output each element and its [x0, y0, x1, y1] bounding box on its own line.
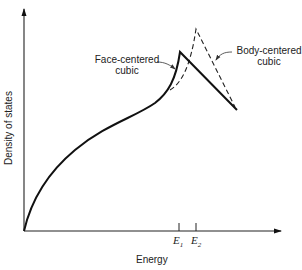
fcc-curve: [24, 52, 237, 231]
y-axis-label: Density of states: [3, 91, 14, 165]
bcc-leader: [216, 52, 232, 60]
tick-label-e1: E1: [173, 235, 183, 251]
bcc-annotation: Body-centered cubic: [234, 45, 302, 67]
fcc-annotation: Face-centered cubic: [93, 54, 161, 76]
bcc-curve: [170, 29, 235, 107]
tick-label-e2: E2: [191, 235, 201, 251]
x-axis-label: Energy: [136, 254, 168, 265]
plot-area: [0, 0, 302, 270]
